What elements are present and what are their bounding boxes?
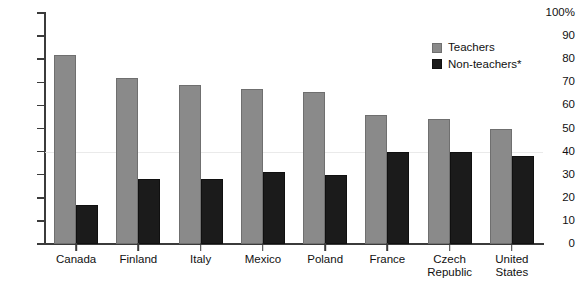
- legend-label-non-teachers: Non-teachers*: [448, 59, 522, 71]
- bar-non-teachers: [450, 152, 472, 244]
- bar-group: [232, 13, 294, 244]
- legend-label-teachers: Teachers: [448, 42, 495, 54]
- bar-group: [45, 13, 107, 244]
- bar-teachers: [116, 78, 138, 244]
- legend: Teachers Non-teachers*: [432, 42, 522, 75]
- bar-non-teachers: [325, 175, 347, 244]
- legend-swatch-teachers: [432, 43, 442, 53]
- x-axis-tick: [200, 243, 202, 251]
- x-axis-tick: [75, 243, 77, 251]
- y-axis-tick: [37, 243, 44, 245]
- bar-teachers: [365, 115, 387, 244]
- legend-item-teachers: Teachers: [432, 42, 522, 54]
- y-axis-tick: [37, 105, 44, 107]
- x-axis-tick: [262, 243, 264, 251]
- y-axis-tick-label: 50: [562, 123, 575, 135]
- x-axis-tick: [511, 243, 513, 251]
- bar-teachers: [490, 129, 512, 245]
- legend-swatch-non-teachers: [432, 59, 442, 69]
- x-axis-category-label: Italy: [170, 253, 232, 279]
- y-axis-tick-label: 0: [569, 238, 575, 250]
- x-axis-category-label: Finland: [107, 253, 169, 279]
- bar-group: [294, 13, 356, 244]
- y-axis-tick: [37, 220, 44, 222]
- bar-teachers: [428, 119, 450, 244]
- y-axis-tick: [37, 82, 44, 84]
- x-axis-tick: [324, 243, 326, 251]
- x-axis-tick: [449, 243, 451, 251]
- bar-non-teachers: [138, 179, 160, 244]
- bar-teachers: [54, 55, 76, 244]
- y-axis-tick: [37, 197, 44, 199]
- bar-teachers: [179, 85, 201, 244]
- y-axis-tick: [37, 128, 44, 130]
- bar-non-teachers: [512, 156, 534, 244]
- bar-non-teachers: [387, 152, 409, 244]
- y-axis-tick-label: 60: [562, 100, 575, 112]
- y-axis-tick: [37, 174, 44, 176]
- y-axis-tick: [37, 151, 44, 153]
- x-axis-category-label: Poland: [294, 253, 356, 279]
- bar-non-teachers: [263, 172, 285, 244]
- y-axis-tick: [37, 58, 44, 60]
- y-axis-tick-label: 100%: [546, 7, 575, 19]
- bar-teachers: [241, 89, 263, 244]
- x-axis-tick: [387, 243, 389, 251]
- bar-group: [356, 13, 418, 244]
- x-axis-category-label: CzechRepublic: [419, 253, 481, 279]
- y-axis-tick-label: 80: [562, 53, 575, 65]
- y-axis-tick-label: 30: [562, 169, 575, 181]
- y-axis-tick: [37, 35, 44, 37]
- bar-non-teachers: [76, 205, 98, 244]
- x-axis-tick: [138, 243, 140, 251]
- y-axis-tick-label: 90: [562, 30, 575, 42]
- y-axis-tick-label: 40: [562, 146, 575, 158]
- bar-group: [170, 13, 232, 244]
- x-axis-category-label: UnitedStates: [481, 253, 543, 279]
- y-axis-tick-label: 20: [562, 192, 575, 204]
- y-axis-tick: [37, 12, 44, 14]
- legend-item-non-teachers: Non-teachers*: [432, 59, 522, 71]
- bar-teachers: [303, 92, 325, 244]
- y-axis-tick-label: 10: [562, 215, 575, 227]
- x-axis-category-label: Mexico: [232, 253, 294, 279]
- x-axis-category-label: France: [356, 253, 418, 279]
- y-axis-tick-label: 70: [562, 77, 575, 89]
- bar-group: [107, 13, 169, 244]
- x-axis-labels: CanadaFinlandItalyMexicoPolandFranceCzec…: [45, 253, 543, 279]
- bar-chart: 100%9080706050403020100 CanadaFinlandIta…: [0, 0, 587, 297]
- bar-non-teachers: [201, 179, 223, 244]
- x-axis-category-label: Canada: [45, 253, 107, 279]
